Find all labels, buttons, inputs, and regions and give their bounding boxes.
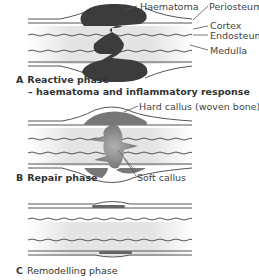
panel-a-caption: AReactive phase xyxy=(16,74,109,85)
fracture-healing-diagram xyxy=(0,0,259,280)
panel-c-bone xyxy=(28,202,193,258)
label-medulla: Medulla xyxy=(210,45,247,56)
label-periosteum: Periosteum xyxy=(209,1,259,12)
panel-a-subtitle: – haematoma and inflammatory response xyxy=(28,86,250,97)
panel-c-caption: CRemodelling phase xyxy=(16,265,118,276)
panel-b-caption: BRepair phase xyxy=(16,172,98,183)
panel-a-bone xyxy=(28,4,193,82)
label-hard-callus: Hard callus (woven bone) xyxy=(139,101,259,112)
label-soft-callus: Soft callus xyxy=(137,172,186,183)
label-endosteum: Endosteum xyxy=(210,30,259,41)
label-haematoma: Haematoma xyxy=(140,1,199,12)
